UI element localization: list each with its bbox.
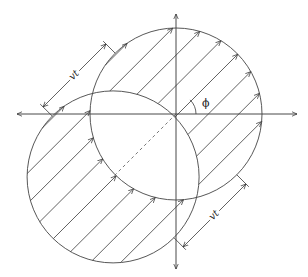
circle-b bbox=[27, 91, 199, 263]
center-to-center-dashed-line bbox=[113, 114, 176, 177]
hatch-arrow bbox=[71, 189, 134, 252]
hatch-arrow bbox=[92, 198, 155, 261]
hatch-arrow bbox=[40, 159, 103, 222]
hatch-arrow bbox=[110, 28, 173, 91]
hatch-arrow bbox=[188, 72, 251, 135]
extension-line bbox=[237, 175, 249, 187]
vt-label-upper: vt bbox=[67, 67, 82, 82]
displacement-dashed-line bbox=[113, 114, 176, 177]
two-circle-diagram: vt vt ϕ bbox=[0, 0, 308, 277]
vt-label-lower: vt bbox=[207, 207, 222, 222]
hatch-arrow bbox=[30, 138, 93, 201]
hatch-arrow bbox=[27, 111, 90, 174]
angle-arc-path bbox=[190, 100, 196, 114]
angle-arc bbox=[190, 100, 196, 114]
hatch-arrow bbox=[137, 31, 200, 94]
circle-displaced bbox=[27, 91, 199, 263]
hatch-arrow bbox=[158, 41, 221, 104]
extension-line bbox=[103, 41, 115, 53]
hatch-arrow bbox=[53, 176, 116, 239]
phi-label: ϕ bbox=[202, 97, 210, 110]
